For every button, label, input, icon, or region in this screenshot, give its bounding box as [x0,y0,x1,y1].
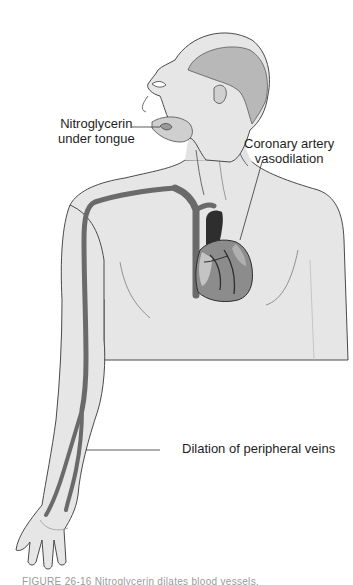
label-peripheral: Dilation of peripheral veins [182,441,335,456]
nitroglycerin-figure: Nitroglycerin under tongue Coronary arte… [0,0,353,585]
arm [16,205,105,569]
body-illustration [16,33,348,569]
mouth-cavity [152,117,192,142]
label-sublingual: Nitroglycerin under tongue [58,116,135,146]
figure-caption: FIGURE 26-16 Nitroglycerin dilates blood… [22,576,259,585]
ear [214,85,226,103]
label-coronary: Coronary artery vasodilation [244,136,334,166]
